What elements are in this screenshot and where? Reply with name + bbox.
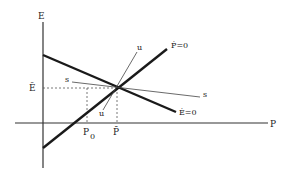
- unstable-saddle-path: [103, 52, 137, 110]
- y-axis-label: E: [38, 11, 45, 21]
- p-zero-subscript: 0: [90, 132, 95, 141]
- phase-diagram: E P Ṗ=0 Ė=0 s s u u Ē P̄ P 0: [0, 0, 291, 175]
- stable-path-label-left: s: [65, 75, 69, 84]
- unstable-path-label-bottom: u: [99, 109, 104, 118]
- p-zero-label: P: [83, 127, 89, 137]
- x-axis-label: P: [270, 119, 276, 129]
- e-dot-zero-curve: [43, 55, 176, 112]
- e-bar-label: Ē: [29, 82, 36, 93]
- e-dot-zero-label: Ė=0: [179, 108, 197, 117]
- unstable-path-label-top: u: [137, 43, 142, 52]
- p-dot-zero-label: Ṗ=0: [171, 41, 188, 50]
- p-bar-label: P̄: [113, 126, 119, 137]
- stable-path-label-right: s: [203, 90, 207, 99]
